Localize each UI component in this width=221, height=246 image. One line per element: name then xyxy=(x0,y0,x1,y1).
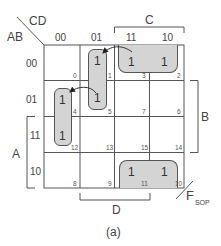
bracket-label-b: B xyxy=(201,111,209,123)
cell-index: 6 xyxy=(177,109,181,116)
col-header: 01 xyxy=(91,33,102,43)
output-label: FSOP xyxy=(186,189,210,202)
cell-value: 1 xyxy=(161,166,168,178)
bracket-label-a: A xyxy=(12,148,20,160)
cell-index: 14 xyxy=(175,145,182,152)
output-label-f: F xyxy=(186,188,194,203)
cell-index: 3 xyxy=(142,73,146,80)
cell-index: 2 xyxy=(177,73,181,80)
arrow-icon xyxy=(103,47,132,53)
cell-index: 0 xyxy=(73,73,77,80)
row-var-label: AB xyxy=(7,31,23,43)
cell-value: 1 xyxy=(128,166,135,178)
bracket-label-d: D xyxy=(112,204,121,216)
figure-caption: (a) xyxy=(106,226,121,238)
cell-value: 1 xyxy=(94,55,101,67)
cell-value: 1 xyxy=(128,56,135,68)
cell-index: 15 xyxy=(141,145,148,152)
cell-index: 10 xyxy=(175,181,182,188)
cell-index: 5 xyxy=(108,109,112,116)
cell-index: 4 xyxy=(73,109,77,116)
cell-index: 1 xyxy=(108,73,112,80)
row-header: 00 xyxy=(26,59,37,69)
col-header: 11 xyxy=(126,33,136,43)
arrow-icon xyxy=(70,87,96,93)
cell-value: 1 xyxy=(59,94,66,106)
col-header: 00 xyxy=(55,33,66,43)
output-label-sub: SOP xyxy=(195,199,210,206)
group-arrows xyxy=(0,0,221,246)
col-header: 10 xyxy=(162,33,173,43)
cell-index: 11 xyxy=(141,181,148,188)
row-header: 11 xyxy=(30,131,40,141)
col-var-label: CD xyxy=(29,15,46,27)
cell-value: 1 xyxy=(59,130,66,142)
cell-value: 1 xyxy=(94,92,101,104)
row-header: 10 xyxy=(30,167,41,177)
cell-index: 7 xyxy=(142,109,146,116)
cell-index: 8 xyxy=(73,181,77,188)
cell-index: 12 xyxy=(71,145,78,152)
cell-value: 1 xyxy=(161,56,168,68)
row-header: 01 xyxy=(26,95,37,105)
bracket-label-c: C xyxy=(145,14,154,26)
cell-index: 9 xyxy=(108,181,112,188)
cell-index: 13 xyxy=(106,145,113,152)
